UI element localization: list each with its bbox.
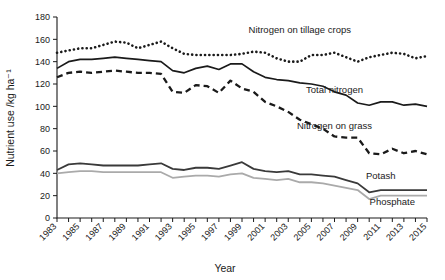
- chart-canvas: 0204060801001201401601801983198519871989…: [0, 0, 445, 280]
- series-label-4: Phosphate: [370, 196, 415, 207]
- y-tick-label: 100: [35, 102, 50, 112]
- y-tick-label: 0: [45, 213, 50, 223]
- x-tick-label: 2005: [292, 221, 313, 242]
- y-tick-label: 120: [35, 79, 50, 89]
- y-tick-label: 160: [35, 35, 50, 45]
- y-tick-label: 40: [40, 169, 50, 179]
- x-tick-label: 1987: [83, 221, 104, 242]
- x-tick-label: 2011: [361, 221, 382, 242]
- chart-axes: [57, 17, 427, 218]
- x-tick-label: 1999: [222, 221, 243, 242]
- nutrient-use-line-chart: 0204060801001201401601801983198519871989…: [0, 0, 445, 280]
- x-tick-label: 2001: [245, 221, 266, 242]
- series-line-0: [57, 42, 427, 62]
- x-tick-label: 1989: [107, 221, 128, 242]
- y-tick-label: 60: [40, 146, 50, 156]
- x-axis-title: Year: [214, 262, 236, 274]
- x-tick-label: 1995: [176, 221, 197, 242]
- series-line-1: [57, 57, 427, 106]
- series-line-2: [57, 71, 427, 155]
- x-tick-label: 1983: [37, 221, 58, 242]
- y-tick-label: 20: [40, 191, 50, 201]
- x-tick-label: 1993: [153, 221, 174, 242]
- x-tick-label: 2013: [384, 221, 405, 242]
- y-tick-label: 140: [35, 57, 50, 67]
- series-label-2: Nitrogen on grass: [297, 120, 372, 131]
- series-label-1: Total nitrogen: [306, 84, 363, 95]
- x-tick-label: 2007: [315, 221, 336, 242]
- y-tick-label: 80: [40, 124, 50, 134]
- x-tick-label: 1991: [130, 221, 151, 242]
- x-tick-label: 1997: [199, 221, 220, 242]
- series-label-3: Potash: [366, 170, 396, 181]
- x-tick-label: 2015: [407, 221, 428, 242]
- y-axis-title: Nutrient use /kg ha⁻¹: [4, 69, 16, 167]
- series-label-0: Nitrogen on tillage crops: [249, 24, 352, 35]
- x-tick-label: 2009: [338, 221, 359, 242]
- x-tick-label: 2003: [268, 221, 289, 242]
- x-tick-label: 1985: [60, 221, 81, 242]
- y-tick-label: 180: [35, 12, 50, 22]
